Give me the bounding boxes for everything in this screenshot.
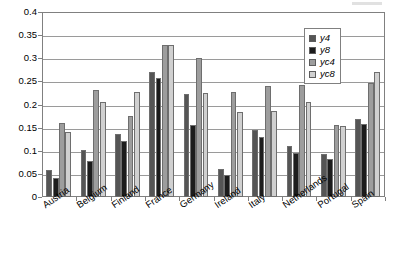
bar	[184, 94, 190, 197]
bar	[368, 83, 374, 197]
bar	[156, 78, 162, 197]
bar-group	[179, 12, 213, 197]
legend-label: y8	[320, 45, 330, 55]
y-axis-tick-label: 0.25	[0, 77, 37, 87]
y-axis-tick-label: 0.15	[0, 123, 37, 133]
bar	[134, 92, 140, 197]
legend: y4 y8 yc4 yc8	[304, 28, 341, 84]
legend-item[interactable]: y4	[309, 32, 335, 44]
bar	[299, 85, 305, 197]
bar-group	[214, 12, 248, 197]
y-axis-tick-label: 0.3	[0, 54, 37, 64]
y-axis-tick-label: 0.35	[0, 30, 37, 40]
y-axis-tick-label: 0.1	[0, 146, 37, 156]
bar	[93, 90, 99, 197]
bar	[271, 111, 277, 197]
bar	[162, 45, 168, 197]
scan-artifact	[352, 2, 382, 5]
bar	[361, 124, 367, 197]
bar-group	[145, 12, 179, 197]
y-axis-tick-label: 0.2	[0, 100, 37, 110]
bar	[81, 150, 87, 197]
bar-group	[76, 12, 110, 197]
bar	[149, 72, 155, 197]
legend-swatch-yc8	[309, 71, 316, 78]
y-axis-tick-label: 0	[0, 192, 37, 202]
bar	[287, 146, 293, 197]
legend-item[interactable]: yc4	[309, 56, 335, 68]
bar-group	[351, 12, 385, 197]
bar	[355, 119, 361, 197]
bar-chart: 00.050.10.150.20.250.30.350.4 AustriaBel…	[0, 0, 398, 259]
bar-group	[42, 12, 76, 197]
bar	[374, 72, 380, 197]
bar	[237, 112, 243, 197]
bar	[190, 125, 196, 197]
bar	[265, 86, 271, 197]
bar	[252, 130, 258, 197]
y-axis-tick-mark	[38, 197, 42, 198]
bar	[231, 92, 237, 197]
bar-group	[248, 12, 282, 197]
legend-label: y4	[320, 33, 330, 43]
legend-label: yc8	[320, 69, 335, 79]
y-axis-tick-label: 0.4	[0, 7, 37, 17]
bar-group	[111, 12, 145, 197]
legend-swatch-y4	[309, 35, 316, 42]
legend-swatch-yc4	[309, 59, 316, 66]
legend-item[interactable]: y8	[309, 44, 335, 56]
bar	[259, 137, 265, 197]
y-axis-tick-label: 0.05	[0, 169, 37, 179]
bar	[115, 134, 121, 197]
legend-swatch-y8	[309, 47, 316, 54]
bar	[196, 58, 202, 197]
legend-label: yc4	[320, 57, 335, 67]
bar	[168, 45, 174, 197]
legend-item[interactable]: yc8	[309, 68, 335, 80]
x-axis-tick-mark	[385, 197, 386, 201]
